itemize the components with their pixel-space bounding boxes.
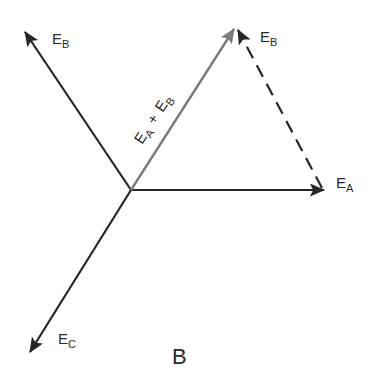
- vector-eb-dashed: [238, 30, 322, 188]
- figure-caption: B: [172, 344, 187, 369]
- label-ea: EA: [336, 174, 354, 194]
- vector-ec: [30, 190, 131, 352]
- vector-eb: [25, 32, 131, 190]
- label-ea-plus-eb: EA+EB: [130, 91, 177, 148]
- phasor-diagram: EB EB EA EC EA+EB B: [0, 0, 378, 375]
- label-eb-right: EB: [260, 28, 277, 48]
- vector-ea-plus-eb: [131, 29, 234, 190]
- label-ec: EC: [58, 330, 76, 350]
- label-eb-left: EB: [52, 30, 69, 50]
